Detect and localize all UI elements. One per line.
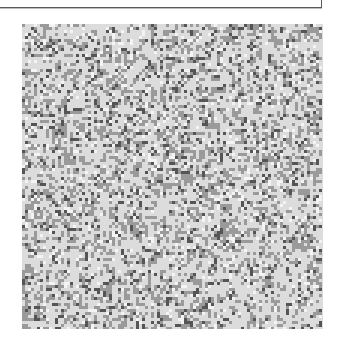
text-input-box[interactable]: [0, 0, 322, 8]
maze-canvas: [22, 24, 323, 329]
maze-image: [22, 24, 323, 329]
